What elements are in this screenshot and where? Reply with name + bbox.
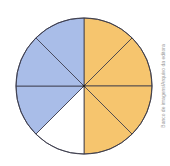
center-dot bbox=[83, 85, 86, 88]
image-credit: Banco de imagens/Arquivo da editora bbox=[160, 44, 166, 127]
fraction-circle bbox=[0, 0, 170, 166]
